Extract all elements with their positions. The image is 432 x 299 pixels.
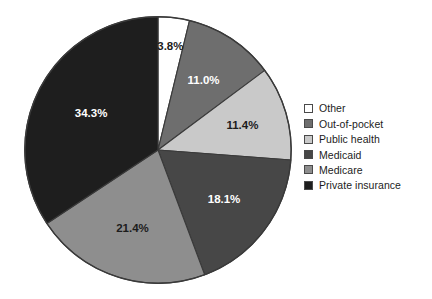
legend-item[interactable]: Public health xyxy=(304,132,428,147)
legend-item-label: Medicare xyxy=(319,164,363,176)
legend-swatch-icon xyxy=(304,150,313,159)
pie-chart-svg: 3.8%11.0%11.4%18.1%21.4%34.3% xyxy=(22,14,294,286)
pie-chart: 3.8%11.0%11.4%18.1%21.4%34.3% xyxy=(22,14,294,286)
legend-item[interactable]: Medicaid xyxy=(304,147,428,162)
legend-swatch-icon xyxy=(304,104,313,113)
pie-slice-label: 3.8% xyxy=(157,40,183,52)
legend-swatch-icon xyxy=(304,119,313,128)
legend-item-label: Medicaid xyxy=(319,149,361,161)
legend-swatch-icon xyxy=(304,165,313,174)
legend-item[interactable]: Other xyxy=(304,101,428,116)
legend-item-label: Public health xyxy=(319,133,380,145)
pie-slice-label: 18.1% xyxy=(208,193,241,205)
pie-slices-group xyxy=(25,17,291,283)
chart-page: 3.8%11.0%11.4%18.1%21.4%34.3% OtherOut-o… xyxy=(0,0,432,299)
legend-item-label: Private insurance xyxy=(319,179,401,191)
chart-legend: OtherOut-of-pocketPublic healthMedicaidM… xyxy=(304,101,428,193)
pie-slice-label: 21.4% xyxy=(116,222,149,234)
legend-swatch-icon xyxy=(304,181,313,190)
legend-item[interactable]: Out-of-pocket xyxy=(304,116,428,131)
legend-item-label: Out-of-pocket xyxy=(319,118,383,130)
legend-swatch-icon xyxy=(304,135,313,144)
legend-item[interactable]: Private insurance xyxy=(304,178,428,193)
pie-slice-label: 11.0% xyxy=(188,74,220,86)
pie-slice-label: 34.3% xyxy=(75,107,108,119)
legend-item-label: Other xyxy=(319,102,346,114)
legend-item[interactable]: Medicare xyxy=(304,163,428,178)
pie-slice-label: 11.4% xyxy=(226,119,258,131)
